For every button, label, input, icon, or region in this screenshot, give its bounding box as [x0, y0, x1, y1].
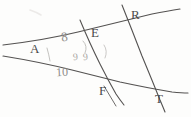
pencil-smudge — [30, 10, 41, 15]
point-label-f: F — [99, 84, 106, 97]
point-label-t: T — [155, 92, 163, 105]
angle-arc-mid — [104, 45, 106, 58]
point-label-r: R — [131, 8, 140, 21]
angle-digit-left: 9 — [72, 52, 78, 62]
angle-tick-a — [47, 48, 50, 61]
angle-digit-right: 9 — [82, 52, 88, 62]
line-a-f-t-lower — [3, 56, 188, 93]
point-label-e: E — [91, 26, 99, 39]
geometry-sketch-canvas: A E R F T 8 10 9 9 — [0, 0, 191, 117]
point-label-a: A — [30, 42, 39, 55]
measure-label-lower: 10 — [56, 66, 69, 79]
